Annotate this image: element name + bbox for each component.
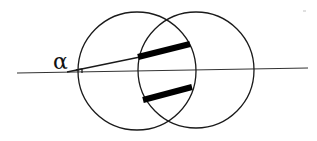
angle-label: α [53, 49, 68, 74]
lower-band [143, 87, 192, 100]
optics-diagram: α [0, 0, 317, 141]
upper-band [138, 44, 190, 57]
